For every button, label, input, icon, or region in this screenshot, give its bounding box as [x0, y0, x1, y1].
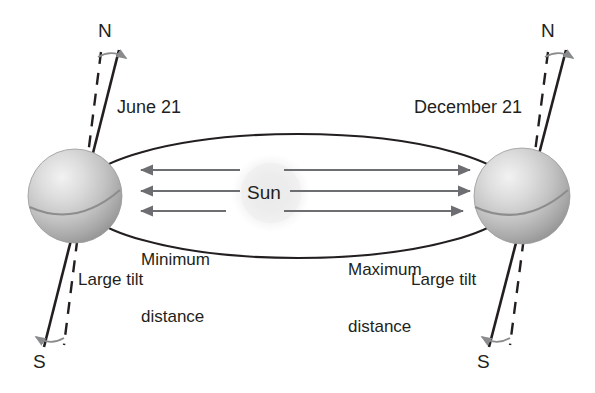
left-planet-group [28, 50, 126, 347]
orbit-diagram: N June 21 Large tilt S N December 21 Lar… [0, 0, 595, 393]
left-rotation-arrow-south [36, 337, 64, 342]
maximum-distance-line-2: distance [348, 317, 422, 336]
minimum-distance-line-2: distance [141, 307, 210, 326]
left-planet-tilt-label: Large tilt [78, 270, 143, 289]
right-rotation-arrow-north [545, 53, 573, 58]
right-planet-date-label: December 21 [414, 97, 522, 117]
left-planet-date-label: June 21 [117, 97, 181, 117]
minimum-distance-label: Minimum distance [141, 212, 210, 364]
left-planet-sphere [28, 149, 122, 243]
right-planet-group [474, 50, 573, 347]
left-planet-north-label: N [98, 20, 112, 41]
right-planet-south-label: S [477, 351, 490, 372]
left-rotation-arrow-north [98, 53, 126, 58]
minimum-distance-line-1: Minimum [141, 250, 210, 269]
sun-label: Sun [247, 182, 281, 203]
right-planet-sphere [474, 148, 570, 244]
maximum-distance-arrows [284, 170, 470, 211]
diagram-canvas [0, 0, 595, 393]
maximum-distance-label: Maximum distance [348, 222, 422, 374]
maximum-distance-line-1: Maximum [348, 260, 422, 279]
left-planet-south-label: S [33, 351, 46, 372]
right-rotation-arrow-south [482, 337, 510, 342]
right-planet-north-label: N [541, 20, 555, 41]
minimum-distance-arrows [141, 170, 240, 211]
